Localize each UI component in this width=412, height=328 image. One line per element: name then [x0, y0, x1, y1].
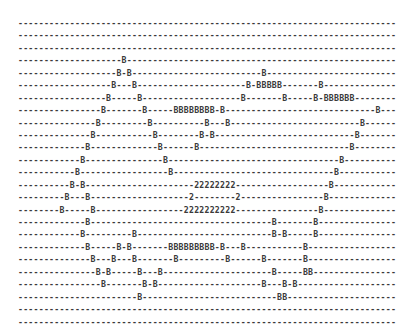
ascii-art-row: -------------B--------------------------… [18, 216, 396, 228]
ascii-art-row: ------------B---------------B-----------… [18, 154, 396, 166]
ascii-art-row: ----------B-B---------------------222222… [18, 179, 396, 191]
ascii-art-row: ----------------------------------------… [18, 42, 396, 54]
ascii-art-row: -------------B-------------B------B-----… [18, 141, 396, 153]
ascii-art-row: -----------------B-----B----------------… [18, 92, 396, 104]
ascii-art-row: --------------B-----------B--------B-B--… [18, 129, 396, 141]
ascii-art-row: ---------B---B-------------------2------… [18, 191, 396, 203]
ascii-art-row: --------------B---B---B-------B---------… [18, 253, 396, 265]
ascii-art-row: -----------B-----------------B----------… [18, 166, 396, 178]
ascii-art-row: ------------------B---B-----------------… [18, 79, 396, 91]
ascii-art-row: --------B-----B-----------------22222222… [18, 204, 396, 216]
ascii-art-row: -------------------B-B------------------… [18, 67, 396, 79]
ascii-art-row: ----------------------------------------… [18, 17, 396, 29]
ascii-art-grid: ----------------------------------------… [18, 17, 396, 328]
ascii-art-row: ------------B---------B-----------------… [18, 228, 396, 240]
ascii-art-row: ---------------B-B-----B---B------------… [18, 266, 396, 278]
ascii-art-row: ---------------B---------B----------B---… [18, 117, 396, 129]
ascii-art-row: ----------------B-------B-----BBBBBBBB-B… [18, 104, 396, 116]
ascii-art-row: ----------------------------------------… [18, 316, 396, 328]
ascii-art-row: --------------------B-------------------… [18, 54, 396, 66]
ascii-art-row: -------------B-----B-B-------BBBBBBBBB-B… [18, 241, 396, 253]
ascii-art-row: ----------------------------------------… [18, 303, 396, 315]
ascii-art-row: ----------------B-------B-B-------------… [18, 278, 396, 290]
ascii-art-row: ----------------------------------------… [18, 29, 396, 41]
ascii-art-row: -----------------------B----------------… [18, 291, 396, 303]
